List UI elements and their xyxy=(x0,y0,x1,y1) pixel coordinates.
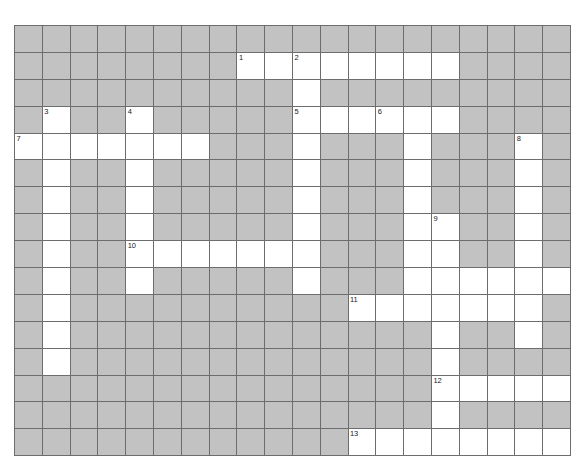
crossword-cell-open[interactable] xyxy=(181,133,209,160)
crossword-cell-open[interactable] xyxy=(126,133,154,160)
crossword-cell-open[interactable] xyxy=(515,429,543,456)
crossword-cell-block xyxy=(404,26,432,53)
crossword-cell-open[interactable] xyxy=(320,52,348,79)
crossword-cell-open[interactable] xyxy=(42,133,70,160)
crossword-cell-open[interactable]: 12 xyxy=(431,375,459,402)
crossword-cell-open[interactable] xyxy=(431,52,459,79)
crossword-cell-open[interactable] xyxy=(348,106,376,133)
crossword-cell-open[interactable] xyxy=(404,241,432,268)
crossword-cell-open[interactable] xyxy=(153,133,181,160)
crossword-cell-open[interactable]: 7 xyxy=(15,133,43,160)
crossword-cell-block xyxy=(15,321,43,348)
crossword-cell-open[interactable] xyxy=(126,268,154,295)
crossword-cell-open[interactable] xyxy=(376,52,404,79)
crossword-cell-open[interactable] xyxy=(292,133,320,160)
crossword-cell-block xyxy=(459,187,487,214)
crossword-cell-block xyxy=(459,26,487,53)
crossword-cell-block xyxy=(15,52,43,79)
crossword-cell-open[interactable]: 3 xyxy=(42,106,70,133)
crossword-cell-open[interactable] xyxy=(487,429,515,456)
crossword-cell-open[interactable] xyxy=(459,375,487,402)
crossword-cell-block xyxy=(237,106,265,133)
crossword-cell-open[interactable] xyxy=(292,268,320,295)
crossword-cell-open[interactable] xyxy=(431,106,459,133)
crossword-cell-open[interactable] xyxy=(209,241,237,268)
crossword-cell-open[interactable] xyxy=(487,268,515,295)
crossword-cell-open[interactable] xyxy=(126,187,154,214)
crossword-cell-open[interactable] xyxy=(515,268,543,295)
crossword-cell-open[interactable] xyxy=(543,375,571,402)
crossword-cell-open[interactable] xyxy=(404,160,432,187)
crossword-cell-open[interactable] xyxy=(42,321,70,348)
crossword-cell-open[interactable] xyxy=(515,187,543,214)
crossword-cell-open[interactable] xyxy=(404,187,432,214)
crossword-cell-open[interactable] xyxy=(320,106,348,133)
crossword-cell-open[interactable] xyxy=(404,268,432,295)
crossword-cell-open[interactable] xyxy=(42,160,70,187)
crossword-cell-open[interactable] xyxy=(404,294,432,321)
crossword-row xyxy=(15,187,571,214)
crossword-cell-open[interactable] xyxy=(431,241,459,268)
crossword-cell-open[interactable] xyxy=(42,294,70,321)
crossword-cell-open[interactable] xyxy=(126,160,154,187)
clue-number: 7 xyxy=(17,134,21,143)
crossword-cell-open[interactable] xyxy=(431,429,459,456)
crossword-cell-open[interactable]: 4 xyxy=(126,106,154,133)
crossword-cell-open[interactable] xyxy=(42,241,70,268)
crossword-cell-open[interactable] xyxy=(515,241,543,268)
crossword-cell-open[interactable] xyxy=(292,187,320,214)
crossword-cell-open[interactable]: 13 xyxy=(348,429,376,456)
crossword-cell-open[interactable] xyxy=(348,52,376,79)
crossword-cell-open[interactable] xyxy=(404,52,432,79)
crossword-cell-open[interactable] xyxy=(292,79,320,106)
crossword-cell-open[interactable] xyxy=(459,294,487,321)
crossword-cell-open[interactable] xyxy=(459,429,487,456)
crossword-cell-open[interactable]: 2 xyxy=(292,52,320,79)
crossword-cell-open[interactable] xyxy=(292,214,320,241)
crossword-cell-open[interactable]: 6 xyxy=(376,106,404,133)
crossword-cell-block xyxy=(98,348,126,375)
crossword-cell-open[interactable] xyxy=(515,375,543,402)
crossword-cell-open[interactable] xyxy=(487,375,515,402)
crossword-cell-open[interactable] xyxy=(237,241,265,268)
crossword-cell-open[interactable] xyxy=(404,133,432,160)
crossword-cell-open[interactable] xyxy=(70,133,98,160)
crossword-cell-open[interactable] xyxy=(42,214,70,241)
crossword-cell-open[interactable] xyxy=(543,429,571,456)
crossword-cell-open[interactable] xyxy=(431,294,459,321)
crossword-cell-open[interactable] xyxy=(431,348,459,375)
crossword-cell-open[interactable] xyxy=(265,241,293,268)
crossword-cell-open[interactable] xyxy=(376,429,404,456)
crossword-cell-open[interactable]: 10 xyxy=(126,241,154,268)
crossword-cell-open[interactable] xyxy=(376,294,404,321)
crossword-cell-open[interactable] xyxy=(404,106,432,133)
crossword-cell-open[interactable] xyxy=(42,187,70,214)
crossword-cell-open[interactable] xyxy=(42,268,70,295)
crossword-cell-open[interactable] xyxy=(404,214,432,241)
crossword-cell-open[interactable] xyxy=(515,160,543,187)
crossword-cell-open[interactable] xyxy=(487,294,515,321)
crossword-cell-open[interactable] xyxy=(265,52,293,79)
crossword-cell-open[interactable] xyxy=(515,294,543,321)
crossword-cell-open[interactable] xyxy=(292,160,320,187)
crossword-cell-open[interactable] xyxy=(292,241,320,268)
crossword-cell-open[interactable] xyxy=(181,241,209,268)
crossword-cell-open[interactable]: 5 xyxy=(292,106,320,133)
crossword-cell-open[interactable]: 9 xyxy=(431,214,459,241)
crossword-cell-open[interactable] xyxy=(153,241,181,268)
crossword-cell-open[interactable] xyxy=(431,321,459,348)
crossword-cell-open[interactable] xyxy=(126,214,154,241)
crossword-cell-open[interactable] xyxy=(431,402,459,429)
crossword-grid[interactable]: 12345678910111213 xyxy=(14,25,571,456)
crossword-cell-open[interactable] xyxy=(404,429,432,456)
crossword-cell-open[interactable] xyxy=(515,321,543,348)
crossword-cell-open[interactable]: 8 xyxy=(515,133,543,160)
crossword-cell-open[interactable] xyxy=(515,214,543,241)
crossword-cell-open[interactable]: 1 xyxy=(237,52,265,79)
crossword-cell-open[interactable] xyxy=(42,348,70,375)
crossword-cell-open[interactable] xyxy=(543,268,571,295)
crossword-cell-open[interactable] xyxy=(98,133,126,160)
crossword-cell-open[interactable] xyxy=(431,268,459,295)
crossword-cell-open[interactable] xyxy=(459,268,487,295)
crossword-cell-open[interactable]: 11 xyxy=(348,294,376,321)
